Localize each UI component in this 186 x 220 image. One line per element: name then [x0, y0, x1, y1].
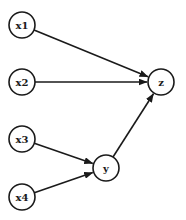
node-label: y: [102, 163, 110, 174]
node-x1: x1: [9, 12, 35, 38]
node-label: x4: [16, 192, 29, 203]
node-x3: x3: [9, 126, 35, 152]
node-label: x1: [16, 20, 29, 31]
edge-y-to-z: [113, 94, 153, 157]
node-x2: x2: [9, 69, 35, 95]
node-z: z: [148, 69, 174, 95]
node-label: x3: [16, 134, 29, 145]
edge-x1-to-z: [34, 30, 148, 77]
node-label: z: [158, 77, 164, 88]
node-y: y: [93, 155, 119, 181]
node-label: x2: [16, 77, 29, 88]
node-x4: x4: [9, 184, 35, 210]
graph-canvas: x1x2x3x4yz: [0, 0, 186, 220]
nodes-layer: x1x2x3x4yz: [9, 12, 174, 210]
edge-x4-to-y: [34, 173, 92, 193]
edge-x3-to-y: [34, 143, 92, 163]
